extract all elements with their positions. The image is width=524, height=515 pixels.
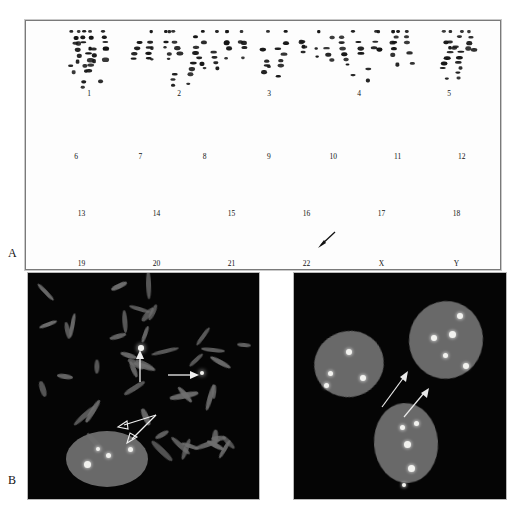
interphase-caption: interphase-nuclei xyxy=(294,273,295,274)
metaphase-arrow-right xyxy=(167,368,201,382)
interphase-fish-signal-3 xyxy=(128,447,133,452)
interphase-fish-signal-4 xyxy=(96,447,100,451)
nucleus-upper-right-signal-1 xyxy=(457,313,463,319)
nucleus-upper-right-signal-5 xyxy=(463,363,469,369)
interphase-double-arrow xyxy=(116,413,160,445)
nucleus-upper-right-signal-2 xyxy=(431,335,437,341)
chromosome-y-1 xyxy=(441,29,455,48)
chromosome-label-22: 22 xyxy=(269,259,344,268)
nucleus-upper-right-signal-4 xyxy=(443,353,448,358)
chromosome-19-2 xyxy=(85,29,99,49)
nucleus-arrow-right xyxy=(402,385,436,419)
metaphase-chromosome xyxy=(151,346,179,357)
panel-b-letter: B xyxy=(8,473,16,488)
metaphase-chromosome xyxy=(141,326,150,343)
metaphase-chromosome xyxy=(128,304,149,314)
chromosome-pair-21: 21 xyxy=(194,21,269,261)
nucleus-left-signal-2 xyxy=(328,371,333,376)
nucleus-bottom-signal-2 xyxy=(414,421,419,426)
metaphase-spread-image: metaphase-spread xyxy=(27,272,260,500)
metaphase-chromosome xyxy=(211,385,216,400)
chromosome-22-arrow xyxy=(315,231,337,251)
chromosome-pair-19: 19 xyxy=(44,21,119,261)
metaphase-chromosome xyxy=(38,380,48,397)
metaphase-arrow-up xyxy=(132,349,148,383)
chromosome-pair-22: 22 xyxy=(269,21,344,261)
interphase-fish-signal-1 xyxy=(84,461,91,468)
nucleus-left-signal-1 xyxy=(346,349,352,355)
metaphase-caption: metaphase-spread xyxy=(28,273,29,274)
chromosome-20-1 xyxy=(146,29,160,48)
metaphase-chromosome xyxy=(94,359,99,373)
chromosome-pair-x: X xyxy=(344,21,419,261)
nucleus-bottom-signal-5 xyxy=(402,483,406,487)
chromosome-label-20: 20 xyxy=(119,259,194,268)
interphase-nuclei-image: interphase-nuclei xyxy=(293,272,507,500)
panel-a-letter: A xyxy=(8,246,17,261)
metaphase-chromosome xyxy=(56,373,72,380)
nucleus-upper-right-signal-3 xyxy=(449,331,456,338)
chromosome-21-1 xyxy=(221,29,235,48)
metaphase-chromosome xyxy=(209,355,232,370)
metaphase-chromosome xyxy=(195,326,211,346)
nucleus-upper-right xyxy=(404,296,488,384)
chromosome-x-2 xyxy=(385,29,399,48)
chromosome-22-2 xyxy=(310,29,324,49)
panel-a: A 12345678910111213141516171819202122XY xyxy=(0,0,524,272)
chromosome-label-19: 19 xyxy=(44,259,119,268)
metaphase-chromosome xyxy=(170,391,199,402)
metaphase-chromosome xyxy=(201,347,225,354)
panel-b: B metaphase-spread interphase-nuclei xyxy=(0,268,524,515)
chromosome-19-1 xyxy=(71,29,85,49)
chromosome-label-21: 21 xyxy=(194,259,269,268)
metaphase-chromosome xyxy=(109,332,127,342)
chromosome-20-2 xyxy=(160,29,174,48)
chromosome-21-2 xyxy=(235,29,249,47)
metaphase-chromosome xyxy=(145,272,151,299)
chromosome-pair-20: 20 xyxy=(119,21,194,261)
metaphase-chromosome xyxy=(110,281,127,292)
nucleus-left-signal-4 xyxy=(324,383,329,388)
metaphase-chromosome xyxy=(237,342,252,348)
chromosome-x-1 xyxy=(371,29,385,49)
metaphase-chromosome xyxy=(188,353,204,368)
nucleus-bottom-signal-3 xyxy=(404,441,411,448)
metaphase-chromosome xyxy=(39,319,58,330)
karyotype-image: 12345678910111213141516171819202122XY xyxy=(25,20,501,270)
chromosome-label-x: X xyxy=(344,259,419,268)
nucleus-left-signal-3 xyxy=(360,375,366,381)
chromosome-label-y: Y xyxy=(419,259,494,268)
metaphase-chromosome xyxy=(36,282,55,302)
chromosome-pair-y: Y xyxy=(419,21,494,261)
interphase-fish-signal-2 xyxy=(106,453,111,458)
chromosome-22-1 xyxy=(296,29,310,47)
nucleus-bottom-signal-1 xyxy=(400,425,405,430)
nucleus-bottom-signal-4 xyxy=(408,465,415,472)
metaphase-chromosome xyxy=(121,309,128,333)
